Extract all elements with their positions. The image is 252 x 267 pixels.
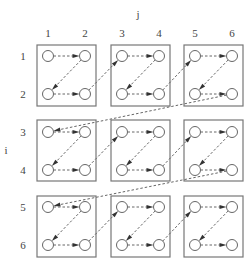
arrowhead-icon (52, 84, 58, 90)
grid-node (117, 202, 128, 213)
edge-line (57, 171, 226, 205)
arrowhead-icon (112, 136, 118, 142)
grid-node (117, 240, 128, 251)
grid-node (43, 127, 54, 138)
edge-line (163, 139, 189, 166)
column-label: 1 (45, 27, 51, 39)
arrowhead-icon (112, 60, 118, 66)
arrowhead-icon (126, 84, 132, 90)
grid-node (117, 89, 128, 100)
arrowhead-icon (73, 205, 80, 209)
arrowhead-icon (220, 130, 227, 134)
arrowhead-icon (73, 130, 80, 134)
arrowhead-icon (147, 168, 154, 172)
arrowhead-icon (199, 160, 205, 166)
blocked-matrix-traversal-diagram: ji123456123456 (0, 0, 252, 267)
grid-node (117, 127, 128, 138)
arrowhead-icon (73, 243, 80, 247)
grid-node (190, 127, 201, 138)
grid-node (80, 165, 91, 176)
grid-node (43, 165, 54, 176)
column-label: 4 (156, 27, 162, 39)
arrowhead-icon (199, 235, 205, 241)
grid-node (190, 89, 201, 100)
column-label: 6 (229, 27, 235, 39)
grid-node (43, 202, 54, 213)
arrowhead-icon (126, 235, 132, 241)
edge-line (163, 63, 189, 90)
arrowhead-icon (73, 168, 80, 172)
edge-line (55, 60, 82, 87)
grid-node (80, 127, 91, 138)
grid-node (43, 51, 54, 62)
arrowhead-icon (126, 160, 132, 166)
row-label: 2 (20, 88, 26, 100)
edge-line (129, 60, 156, 87)
grid-node (154, 127, 165, 138)
arrowhead-icon (52, 160, 58, 166)
grid-node (154, 165, 165, 176)
arrowhead-icon (73, 54, 80, 58)
grid-node (190, 51, 201, 62)
arrowhead-icon (112, 211, 118, 217)
edge-line (202, 60, 229, 87)
row-label: 1 (20, 50, 26, 62)
grid-node (117, 165, 128, 176)
arrowhead-icon (147, 92, 154, 96)
grid-node (154, 240, 165, 251)
grid-node (154, 89, 165, 100)
row-label: 5 (20, 201, 26, 213)
grid-node (80, 202, 91, 213)
arrowhead-icon (147, 54, 154, 58)
arrowhead-icon (73, 92, 80, 96)
grid-node (43, 240, 54, 251)
traversal-edges (52, 54, 228, 247)
edge-line (202, 211, 229, 238)
edge-line (55, 211, 82, 238)
edge-line (55, 136, 82, 163)
grid-node (80, 240, 91, 251)
grid-node (154, 51, 165, 62)
arrowhead-icon (52, 235, 58, 241)
column-label: 3 (119, 27, 125, 39)
grid-node (190, 202, 201, 213)
row-label: 4 (20, 164, 26, 176)
edge-line (129, 211, 156, 238)
grid-node (80, 51, 91, 62)
row-axis-label: i (4, 144, 7, 156)
grid-node (227, 51, 238, 62)
row-label: 6 (20, 239, 26, 251)
edge-line (202, 136, 229, 163)
arrowhead-icon (147, 243, 154, 247)
column-label: 5 (192, 27, 198, 39)
arrowhead-icon (53, 203, 60, 207)
grid-node (227, 202, 238, 213)
grid-node (154, 202, 165, 213)
grid-node (117, 51, 128, 62)
column-axis-label: j (135, 8, 139, 20)
arrowhead-icon (147, 130, 154, 134)
arrowhead-icon (53, 128, 60, 132)
edge-line (163, 214, 189, 241)
grid-node (227, 165, 238, 176)
grid-node (190, 165, 201, 176)
edge-line (57, 95, 226, 130)
grid-node (227, 89, 238, 100)
arrowhead-icon (220, 54, 227, 58)
grid-node (227, 127, 238, 138)
grid-node (227, 240, 238, 251)
arrowhead-icon (220, 205, 227, 209)
arrowhead-icon (220, 243, 227, 247)
arrowhead-icon (199, 84, 205, 90)
grid-node (190, 240, 201, 251)
arrowhead-icon (147, 205, 154, 209)
grid-node (80, 89, 91, 100)
grid-node (43, 89, 54, 100)
edge-line (129, 136, 156, 163)
row-label: 3 (20, 126, 26, 138)
column-label: 2 (82, 27, 88, 39)
